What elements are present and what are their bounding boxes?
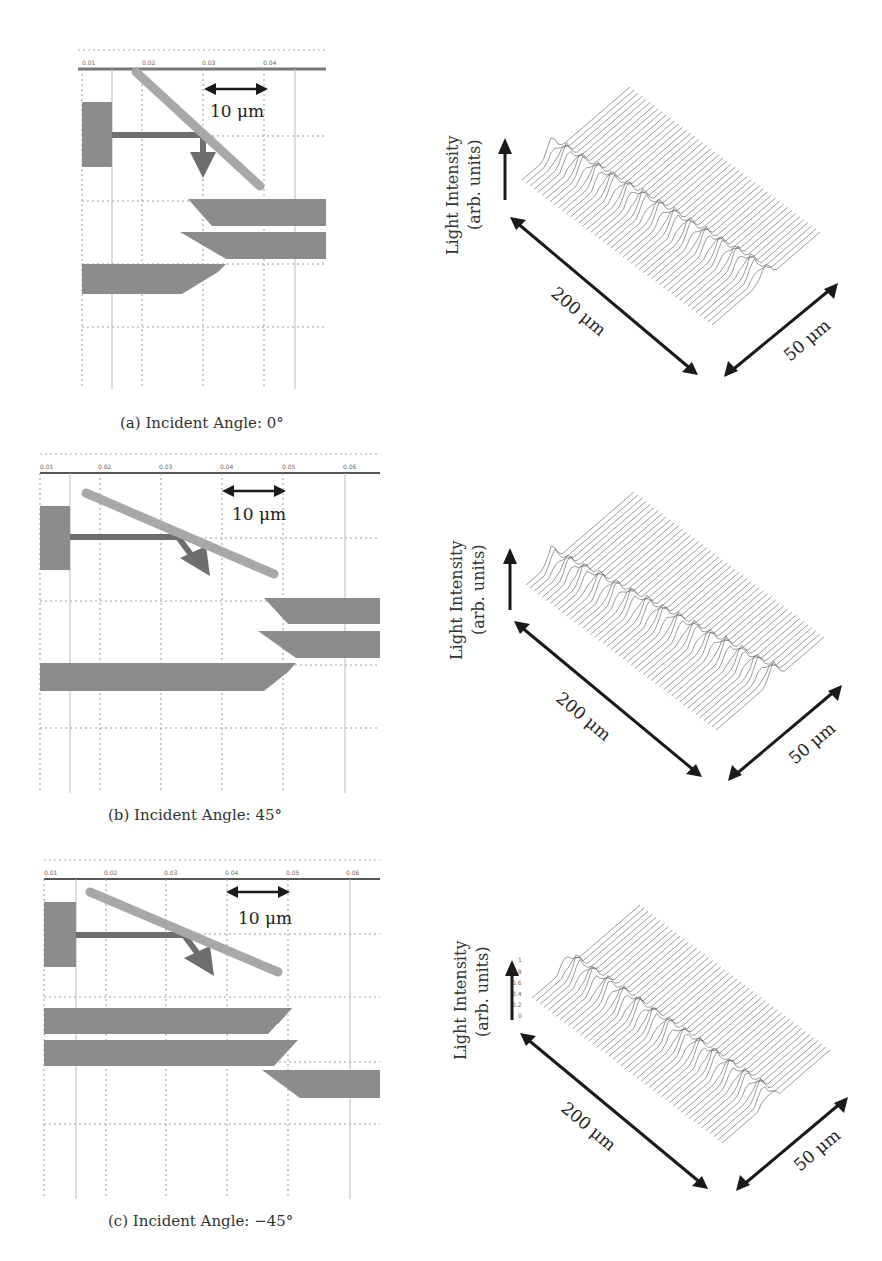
ruler-tick: 0.04 (220, 463, 234, 470)
scale-bar: 10 μm (204, 83, 268, 121)
caption-a: (a) Incident Angle: 0° (120, 414, 284, 432)
ruler-tick: 0.03 (164, 869, 178, 876)
long-dimension-label: 200 μm (557, 1098, 620, 1155)
svg-text:(arb. units): (arb. units) (465, 140, 484, 230)
ruler-tick: 0.02 (98, 463, 112, 470)
arrow-right-icon (278, 886, 290, 898)
ruler-tick: 0.05 (282, 463, 296, 470)
output-waveguide-1 (188, 199, 326, 226)
ruler-tick: 0.02 (142, 59, 156, 66)
ruler-tick: 0.03 (159, 463, 173, 470)
incident-beam (112, 132, 206, 138)
arrow-left-icon (204, 83, 216, 95)
y-axis-title: Light Intensity (443, 136, 462, 255)
arrow-right-icon (274, 485, 286, 497)
ruler-tick: 0.03 (202, 59, 216, 66)
scale-bar: 10 μm (222, 485, 286, 524)
panel-c: 0.01 0.02 0.03 0.04 0.05 0.06 (0, 840, 882, 1261)
y-axis-title: Light Intensity (451, 941, 470, 1060)
arrow-up-icon (503, 548, 517, 564)
ruler-tick: 0.06 (346, 869, 360, 876)
incident-beam (70, 534, 180, 540)
output-waveguide-1 (44, 1008, 292, 1034)
svg-text:10 μm: 10 μm (210, 101, 264, 121)
svg-text:(arb. units): (arb. units) (469, 545, 488, 635)
reflected-beam-arrow-icon (190, 152, 216, 178)
short-dimension-label: 50 μm (790, 1125, 844, 1175)
arrow-icon (724, 361, 738, 377)
panel-a: 0.01 0.02 0.03 0.04 1 (0, 0, 882, 440)
arrow-left-icon (226, 886, 238, 898)
output-waveguide-2 (258, 631, 380, 658)
arrow-icon (736, 1175, 750, 1191)
arrow-left-icon (222, 485, 234, 497)
ruler-tick: 0.01 (82, 59, 96, 66)
y-axis-title: Light Intensity (447, 541, 466, 660)
svg-text:10 μm: 10 μm (238, 908, 292, 928)
output-waveguide-2 (44, 1040, 298, 1066)
scale-bar: 10 μm (226, 886, 292, 928)
arrow-up-icon (498, 138, 512, 154)
ruler-tick: 0.04 (225, 869, 239, 876)
plot-a-intensity-waterfall: Light Intensity (arb. units) 200 μm 50 μ… (430, 50, 850, 410)
plot-c-intensity-waterfall: 1 0.8 0.6 0.4 0.2 0 Light Intensity (arb… (430, 880, 850, 1220)
output-waveguide-2 (180, 232, 326, 259)
ruler-tick: 0.01 (40, 463, 54, 470)
panel-b: 0.01 0.02 0.03 0.04 0.05 0.06 (0, 440, 882, 840)
ruler-tick: 0.04 (263, 59, 277, 66)
output-waveguide-3 (82, 264, 226, 294)
ruler-tick: 0.01 (44, 869, 58, 876)
caption-c: (c) Incident Angle: −45° (108, 1212, 293, 1230)
ruler-tick: 0.02 (104, 869, 118, 876)
svg-text:(arb. units): (arb. units) (473, 947, 492, 1037)
arrow-right-icon (256, 83, 268, 95)
caption-b: (b) Incident Angle: 45° (108, 806, 282, 824)
output-waveguide-3 (262, 1070, 380, 1098)
svg-text:10 μm: 10 μm (232, 504, 286, 524)
arrow-icon (824, 283, 838, 299)
layout-b-simulation-layout: 0.01 0.02 0.03 0.04 0.05 0.06 (38, 448, 380, 793)
layout-c-simulation-layout: 0.01 0.02 0.03 0.04 0.05 0.06 (42, 854, 380, 1199)
arrow-icon (828, 685, 842, 701)
arrow-icon (728, 765, 742, 781)
plot-b-intensity-waterfall: Light Intensity (arb. units) 200 μm 50 μ… (430, 460, 850, 810)
incident-beam (76, 932, 186, 938)
light-source-block (82, 102, 112, 167)
output-waveguide-1 (264, 598, 380, 624)
light-source-block (44, 902, 76, 967)
output-waveguide-3 (40, 663, 296, 691)
ruler-tick: 0.05 (286, 869, 300, 876)
svg-text:0: 0 (518, 1012, 522, 1019)
arrow-icon (834, 1097, 848, 1113)
ruler-tick: 0.06 (343, 463, 357, 470)
grid-lines (82, 69, 326, 389)
svg-text:1: 1 (518, 956, 522, 963)
light-source-block (40, 506, 70, 570)
layout-a-simulation-layout: 0.01 0.02 0.03 0.04 1 (76, 44, 328, 389)
